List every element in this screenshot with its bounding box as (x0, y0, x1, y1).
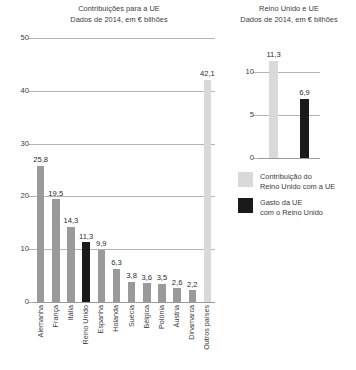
x-axis-category-label: Suécia (128, 305, 135, 327)
bar-value-label: 6,3 (111, 259, 122, 267)
y-axis-tick-label: 0 (25, 298, 29, 306)
x-axis-category-label: Alemanha (37, 305, 44, 337)
bar-value-label: 11,3 (266, 51, 280, 59)
right-chart-subtitle: Dados de 2014, em € bilhões (224, 15, 354, 26)
gridline (258, 115, 320, 116)
x-axis-category-label: Reino Unido (82, 305, 89, 345)
bar: 42,1Outros países (204, 80, 212, 302)
x-axis-line (33, 302, 215, 303)
bar: 6,3Holanda (113, 269, 121, 302)
legend-label-spending: Gasto da UE com o Reino Unido (260, 198, 323, 217)
bar: 3,5Polónia (158, 284, 166, 302)
gridline (33, 144, 215, 145)
x-axis-category-label: Bélgica (143, 305, 150, 329)
legend-label-spending-line2: com o Reino Unido (260, 208, 323, 218)
legend-label-spending-line1: Gasto da UE (260, 198, 323, 208)
bar-value-label: 3,8 (126, 272, 137, 280)
bar: 2,2Dinamarca (189, 290, 197, 302)
bar-value-label: 2,2 (187, 281, 198, 289)
legend-label-contribution-line1: Contribuição do (260, 172, 335, 182)
legend-label-contribution: Contribuição do Reino Unido com a UE (260, 172, 335, 191)
bar: 3,8Suécia (128, 282, 136, 302)
y-axis-tick-label: 10 (21, 245, 29, 253)
bar-value-label: 3,5 (157, 274, 168, 282)
bar: 11,3Reino Unido (82, 242, 90, 302)
bar-value-label: 6,9 (299, 89, 310, 97)
gridline (33, 38, 215, 39)
legend-label-contribution-line2: Reino Unido com a UE (260, 182, 335, 192)
x-axis-category-label: Polónia (158, 305, 165, 329)
y-axis-tick-label: 10 (246, 68, 254, 76)
bar: 6,9 (300, 99, 309, 158)
y-axis-tick-label: 0 (250, 154, 254, 162)
y-axis-tick-label: 5 (250, 111, 254, 119)
legend-item: Contribuição do Reino Unido com a UE (238, 172, 354, 191)
chart-legend: Contribuição do Reino Unido com a UE Gas… (238, 172, 354, 224)
contributions-chart: Contribuições para a UE Dados de 2014, e… (0, 0, 222, 370)
bar: 9,9Espanha (98, 250, 106, 302)
legend-swatch-contribution (238, 172, 253, 187)
left-plot-area: 0102030405025,8Alemanha19,5França14,3Itá… (33, 38, 215, 302)
bar-value-label: 25,8 (33, 156, 48, 164)
bar: 3,6Bélgica (143, 283, 151, 302)
x-axis-line (258, 158, 320, 159)
bar-value-label: 42,1 (200, 70, 215, 78)
right-plot-area: 051011,36,9 (258, 50, 320, 158)
x-axis-category-label: França (52, 305, 59, 327)
x-axis-category-label: Holanda (113, 305, 120, 332)
y-axis-tick-label: 40 (21, 87, 29, 95)
bar: 2,6Áustria (173, 288, 181, 302)
bar-value-label: 3,6 (141, 274, 152, 282)
gridline (33, 91, 215, 92)
bar: 19,5França (52, 199, 60, 302)
bar: 25,8Alemanha (37, 166, 45, 302)
bar-value-label: 9,9 (96, 240, 107, 248)
right-chart-title-line1: Reino Unido e UE (224, 4, 354, 15)
bar: 14,3Itália (67, 227, 75, 303)
y-axis-tick-label: 30 (21, 140, 29, 148)
bar-value-label: 14,3 (64, 217, 79, 225)
bar-value-label: 19,5 (48, 190, 63, 198)
legend-item: Gasto da UE com o Reino Unido (238, 198, 354, 217)
x-axis-category-label: Itália (67, 305, 74, 320)
y-axis-tick-label: 20 (21, 193, 29, 201)
x-axis-category-label: Outros países (204, 305, 211, 350)
gridline (33, 249, 215, 250)
left-chart-title: Contribuições para a UE Dados de 2014, e… (24, 4, 214, 25)
gridline (258, 72, 320, 73)
right-chart-title: Reino Unido e UE Dados de 2014, em € bil… (224, 4, 354, 25)
bar-value-label: 2,6 (172, 279, 183, 287)
x-axis-category-label: Espanha (98, 305, 105, 333)
bar-value-label: 11,3 (79, 233, 93, 241)
y-axis-tick-label: 50 (21, 34, 29, 42)
left-chart-subtitle: Dados de 2014, em € bilhões (24, 15, 214, 26)
x-axis-category-label: Áustria (173, 305, 180, 327)
x-axis-category-label: Dinamarca (189, 305, 196, 340)
legend-swatch-spending (238, 198, 253, 213)
bar: 11,3 (269, 61, 278, 158)
left-chart-title-line1: Contribuições para a UE (24, 4, 214, 15)
